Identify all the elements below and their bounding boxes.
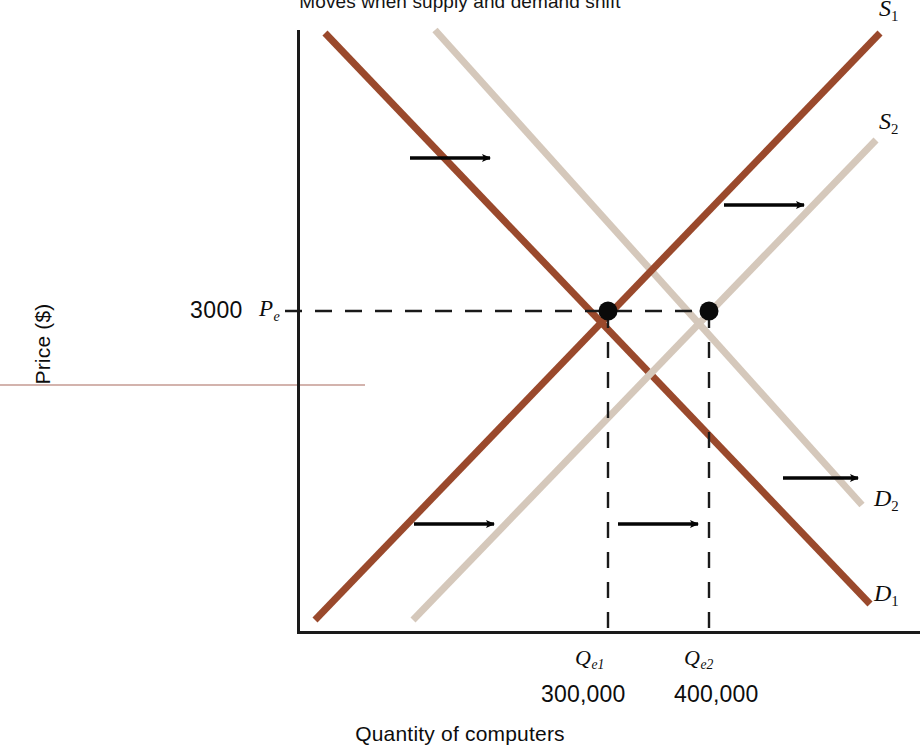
supply-demand-chart: [0, 0, 920, 752]
qe1-subscript: e1: [591, 657, 604, 672]
d1-base: D: [874, 580, 891, 606]
d1-subscript: 1: [891, 593, 898, 609]
figure-canvas: Moves when supply and demand shift Price…: [0, 0, 920, 752]
supply-curve-label-s2: S2: [879, 108, 898, 138]
supply-curve-label-s1: S1: [879, 0, 898, 25]
demand-curve-label-d2: D2: [874, 485, 899, 515]
y-axis-tick-label-3000: 3000: [190, 297, 243, 324]
y-axis-title: Price ($): [31, 274, 55, 414]
qe1-base: Q: [575, 645, 591, 670]
qe1-value: 300,000: [541, 681, 626, 708]
equilibrium-price-label: Pe: [259, 296, 280, 325]
d2-base: D: [874, 485, 891, 511]
s2-subscript: 2: [891, 121, 898, 137]
supply-curve-s2: [413, 140, 876, 620]
qe1-label: Qe1: [575, 645, 604, 673]
equilibrium-point-2: [700, 302, 719, 321]
s2-base: S: [879, 108, 891, 134]
demand-curve-d1: [325, 33, 870, 604]
pe-subscript: e: [273, 308, 280, 324]
qe2-label: Qe2: [684, 645, 713, 673]
equilibrium-point-1: [599, 302, 618, 321]
qe2-subscript: e2: [700, 657, 713, 672]
qe2-value: 400,000: [674, 681, 759, 708]
qe2-base: Q: [684, 645, 700, 670]
x-axis-title: Quantity of computers: [0, 722, 920, 746]
s1-base: S: [879, 0, 891, 21]
supply-curve-s1: [315, 33, 880, 620]
d2-subscript: 2: [891, 498, 898, 514]
s1-subscript: 1: [891, 8, 898, 24]
demand-curve-label-d1: D1: [874, 580, 899, 610]
pe-base: P: [259, 296, 273, 321]
